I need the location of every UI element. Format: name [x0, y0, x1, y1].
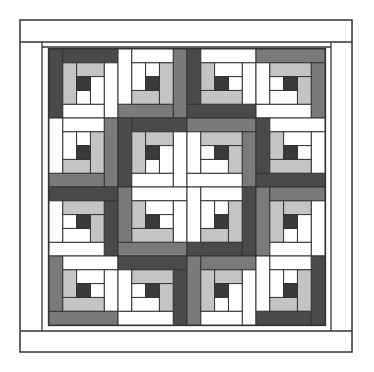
log-strip-white	[173, 132, 187, 187]
log-strip-medium	[256, 49, 325, 63]
quilt-block-r2c3	[256, 187, 325, 256]
log-strip-medium	[49, 173, 104, 187]
log-strip-light	[270, 201, 284, 242]
log-strip-white	[284, 228, 298, 242]
log-strip-light	[132, 132, 146, 173]
log-strip-white	[146, 63, 160, 77]
log-strip-medium	[104, 118, 118, 187]
log-strip-medium	[49, 256, 63, 311]
log-strip-dark	[187, 49, 201, 104]
log-strip-white	[77, 132, 91, 146]
log-strip-white	[270, 256, 311, 270]
log-strip-white	[242, 270, 256, 325]
log-strip-white	[63, 118, 104, 132]
quilt-block-r1c0	[49, 118, 118, 187]
quilt-block-r3c0	[49, 256, 118, 325]
log-strip-white	[201, 146, 215, 160]
log-strip-light	[159, 284, 173, 312]
log-strip-light	[228, 201, 242, 242]
center-square	[77, 77, 91, 91]
log-strip-dark	[256, 118, 270, 173]
log-cabin-quilt-diagram	[0, 0, 374, 372]
log-strip-white	[49, 201, 63, 242]
log-strip-white	[256, 104, 311, 118]
log-strip-light	[297, 77, 311, 105]
log-strip-white	[297, 215, 311, 243]
log-strip-white	[311, 132, 325, 173]
quilt-block-r3c2	[187, 256, 256, 325]
log-strip-white	[270, 90, 298, 104]
log-strip-white	[187, 187, 201, 242]
log-strip-light	[201, 132, 242, 146]
quilt-block-r3c3	[256, 256, 325, 325]
log-strip-white	[63, 104, 104, 118]
center-square	[146, 146, 160, 160]
quilt-block-r1c2	[187, 118, 256, 187]
log-strip-white	[201, 49, 256, 63]
log-strip-light	[63, 159, 91, 173]
log-strip-white	[132, 63, 146, 91]
log-strip-light	[201, 270, 215, 311]
log-strip-white	[187, 173, 242, 187]
log-strip-medium	[256, 187, 270, 256]
log-strip-white	[132, 49, 173, 63]
log-strip-white	[63, 256, 118, 270]
log-strip-white	[49, 118, 63, 173]
log-strip-white	[228, 77, 242, 91]
log-strip-light	[270, 159, 311, 173]
log-strip-medium	[201, 256, 256, 270]
log-strip-white	[159, 215, 173, 229]
log-strip-light	[146, 132, 174, 146]
log-strip-white	[215, 297, 229, 311]
log-strip-medium	[242, 132, 256, 187]
log-strip-dark	[173, 270, 187, 325]
log-strip-medium	[311, 63, 325, 118]
log-strip-light	[132, 270, 173, 284]
quilt-block-r0c2	[187, 49, 256, 118]
quilt-block-r2c1	[118, 187, 187, 256]
log-strip-white	[201, 201, 215, 229]
log-strip-dark	[49, 187, 118, 201]
log-strip-white	[132, 297, 160, 311]
log-strip-dark	[118, 256, 187, 270]
log-strip-white	[146, 201, 174, 215]
log-strip-light	[132, 201, 146, 229]
log-strip-white	[311, 201, 325, 256]
quilt-block-r1c3	[256, 118, 325, 187]
center-square	[146, 215, 160, 229]
log-strip-white	[228, 284, 242, 312]
log-strip-light	[63, 63, 77, 104]
log-strip-white	[90, 77, 104, 105]
log-strip-light	[284, 201, 312, 215]
log-strip-light	[132, 90, 160, 104]
log-strip-white	[201, 159, 229, 173]
log-strip-white	[132, 173, 173, 187]
log-strip-light	[159, 63, 173, 104]
log-strip-light	[270, 297, 298, 311]
log-strip-white	[104, 63, 118, 118]
log-strip-white	[146, 159, 160, 173]
center-square	[215, 77, 229, 91]
center-square	[284, 215, 298, 229]
log-strip-white	[49, 242, 104, 256]
log-strip-dark	[187, 242, 242, 256]
log-strip-light	[90, 132, 104, 173]
log-strip-light	[63, 270, 77, 298]
log-strip-white	[201, 187, 242, 201]
log-strip-white	[118, 49, 132, 104]
log-strip-white	[187, 132, 201, 173]
quilt-blocks	[49, 49, 325, 325]
log-strip-medium	[187, 256, 201, 325]
log-strip-medium	[173, 49, 187, 118]
quilt-block-r0c3	[256, 49, 325, 118]
quilt-block-r2c2	[187, 187, 256, 256]
log-strip-white	[63, 215, 77, 229]
log-strip-light	[90, 215, 104, 243]
log-strip-dark	[256, 173, 325, 187]
log-strip-light	[201, 228, 229, 242]
log-strip-medium	[118, 104, 173, 118]
quilt-block-r0c0	[49, 49, 118, 118]
log-strip-dark	[104, 201, 118, 256]
center-square	[215, 215, 229, 229]
log-strip-white	[270, 77, 284, 91]
